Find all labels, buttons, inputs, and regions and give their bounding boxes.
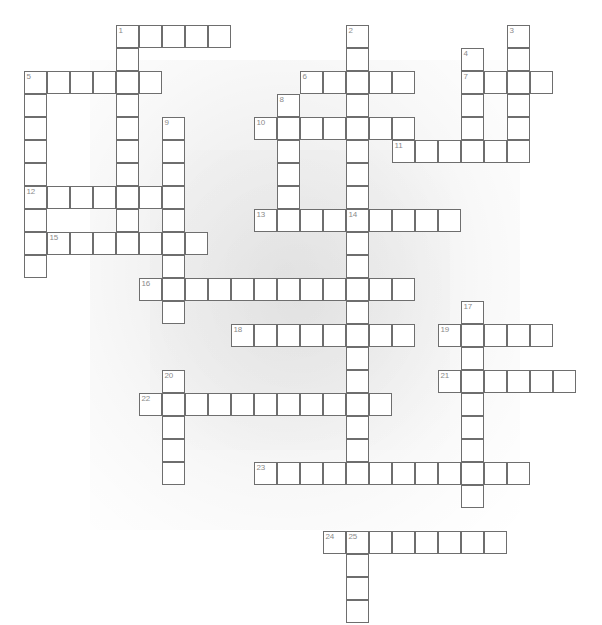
crossword-cell[interactable] bbox=[231, 393, 254, 416]
crossword-cell[interactable] bbox=[346, 600, 369, 623]
crossword-cell[interactable] bbox=[392, 209, 415, 232]
crossword-cell[interactable]: 5 bbox=[24, 71, 47, 94]
crossword-cell[interactable] bbox=[484, 71, 507, 94]
crossword-cell[interactable] bbox=[461, 94, 484, 117]
crossword-cell[interactable] bbox=[507, 117, 530, 140]
crossword-cell[interactable] bbox=[346, 462, 369, 485]
crossword-cell[interactable] bbox=[530, 370, 553, 393]
crossword-cell[interactable]: 21 bbox=[438, 370, 461, 393]
crossword-cell[interactable] bbox=[415, 140, 438, 163]
crossword-cell[interactable] bbox=[461, 485, 484, 508]
crossword-cell[interactable] bbox=[507, 324, 530, 347]
crossword-cell[interactable] bbox=[346, 71, 369, 94]
crossword-cell[interactable] bbox=[70, 232, 93, 255]
crossword-cell[interactable] bbox=[346, 577, 369, 600]
crossword-cell[interactable] bbox=[24, 94, 47, 117]
crossword-cell[interactable]: 9 bbox=[162, 117, 185, 140]
crossword-cell[interactable] bbox=[300, 209, 323, 232]
crossword-cell[interactable] bbox=[116, 186, 139, 209]
crossword-cell[interactable] bbox=[507, 48, 530, 71]
crossword-cell[interactable] bbox=[300, 324, 323, 347]
crossword-cell[interactable]: 16 bbox=[139, 278, 162, 301]
crossword-cell[interactable] bbox=[162, 462, 185, 485]
crossword-cell[interactable] bbox=[323, 71, 346, 94]
crossword-cell[interactable] bbox=[461, 416, 484, 439]
crossword-cell[interactable] bbox=[116, 94, 139, 117]
crossword-cell[interactable] bbox=[208, 393, 231, 416]
crossword-cell[interactable] bbox=[530, 324, 553, 347]
crossword-cell[interactable] bbox=[139, 71, 162, 94]
crossword-cell[interactable] bbox=[300, 117, 323, 140]
crossword-cell[interactable]: 13 bbox=[254, 209, 277, 232]
crossword-cell[interactable] bbox=[24, 209, 47, 232]
crossword-cell[interactable] bbox=[162, 255, 185, 278]
crossword-cell[interactable] bbox=[185, 232, 208, 255]
crossword-cell[interactable] bbox=[162, 209, 185, 232]
crossword-cell[interactable]: 3 bbox=[507, 25, 530, 48]
crossword-cell[interactable] bbox=[70, 186, 93, 209]
crossword-cell[interactable] bbox=[139, 25, 162, 48]
crossword-cell[interactable] bbox=[438, 462, 461, 485]
crossword-cell[interactable]: 20 bbox=[162, 370, 185, 393]
crossword-cell[interactable] bbox=[392, 71, 415, 94]
crossword-cell[interactable] bbox=[208, 25, 231, 48]
crossword-cell[interactable] bbox=[254, 324, 277, 347]
crossword-cell[interactable] bbox=[116, 48, 139, 71]
crossword-cell[interactable] bbox=[507, 71, 530, 94]
crossword-cell[interactable] bbox=[461, 140, 484, 163]
crossword-cell[interactable] bbox=[346, 301, 369, 324]
crossword-cell[interactable] bbox=[346, 186, 369, 209]
crossword-cell[interactable] bbox=[70, 71, 93, 94]
crossword-cell[interactable]: 25 bbox=[346, 531, 369, 554]
crossword-cell[interactable]: 8 bbox=[277, 94, 300, 117]
crossword-cell[interactable] bbox=[139, 232, 162, 255]
crossword-cell[interactable]: 23 bbox=[254, 462, 277, 485]
crossword-cell[interactable] bbox=[369, 117, 392, 140]
crossword-cell[interactable] bbox=[392, 117, 415, 140]
crossword-cell[interactable] bbox=[185, 393, 208, 416]
crossword-cell[interactable]: 11 bbox=[392, 140, 415, 163]
crossword-cell[interactable] bbox=[392, 462, 415, 485]
crossword-cell[interactable] bbox=[461, 370, 484, 393]
crossword-cell[interactable] bbox=[323, 393, 346, 416]
crossword-cell[interactable] bbox=[323, 209, 346, 232]
crossword-cell[interactable] bbox=[277, 209, 300, 232]
crossword-cell[interactable] bbox=[346, 278, 369, 301]
crossword-cell[interactable] bbox=[277, 186, 300, 209]
crossword-cell[interactable] bbox=[369, 393, 392, 416]
crossword-cell[interactable]: 18 bbox=[231, 324, 254, 347]
crossword-cell[interactable] bbox=[116, 71, 139, 94]
crossword-cell[interactable] bbox=[24, 163, 47, 186]
crossword-cell[interactable] bbox=[24, 117, 47, 140]
crossword-cell[interactable] bbox=[461, 531, 484, 554]
crossword-cell[interactable] bbox=[438, 140, 461, 163]
crossword-cell[interactable]: 15 bbox=[47, 232, 70, 255]
crossword-cell[interactable] bbox=[254, 278, 277, 301]
crossword-cell[interactable] bbox=[346, 347, 369, 370]
crossword-cell[interactable] bbox=[346, 554, 369, 577]
crossword-cell[interactable] bbox=[162, 163, 185, 186]
crossword-cell[interactable] bbox=[346, 48, 369, 71]
crossword-cell[interactable] bbox=[162, 439, 185, 462]
crossword-cell[interactable] bbox=[346, 163, 369, 186]
crossword-cell[interactable] bbox=[461, 117, 484, 140]
crossword-cell[interactable] bbox=[346, 140, 369, 163]
crossword-cell[interactable] bbox=[162, 278, 185, 301]
crossword-cell[interactable] bbox=[277, 163, 300, 186]
crossword-cell[interactable] bbox=[461, 393, 484, 416]
crossword-cell[interactable] bbox=[346, 439, 369, 462]
crossword-cell[interactable] bbox=[369, 209, 392, 232]
crossword-cell[interactable] bbox=[231, 278, 254, 301]
crossword-cell[interactable] bbox=[507, 94, 530, 117]
crossword-cell[interactable] bbox=[461, 347, 484, 370]
crossword-cell[interactable]: 14 bbox=[346, 209, 369, 232]
crossword-cell[interactable] bbox=[277, 393, 300, 416]
crossword-cell[interactable] bbox=[323, 324, 346, 347]
crossword-cell[interactable] bbox=[47, 71, 70, 94]
crossword-cell[interactable] bbox=[323, 462, 346, 485]
crossword-cell[interactable] bbox=[461, 324, 484, 347]
crossword-cell[interactable] bbox=[369, 324, 392, 347]
crossword-cell[interactable] bbox=[484, 370, 507, 393]
crossword-cell[interactable] bbox=[277, 140, 300, 163]
crossword-cell[interactable] bbox=[24, 140, 47, 163]
